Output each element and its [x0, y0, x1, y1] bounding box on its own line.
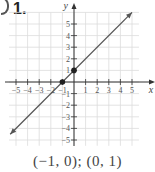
y-axis-arrow-icon [72, 3, 77, 9]
y-axis-label: y [63, 0, 69, 11]
y-tick-label: −4 [61, 124, 70, 133]
y-tick-label: −3 [61, 113, 70, 122]
x-tick-label: 1 [84, 86, 88, 95]
x-tick-label: 2 [95, 86, 99, 95]
y-tick-label: −5 [61, 136, 70, 145]
x-tick-label: −5 [12, 86, 21, 95]
graph-line [10, 12, 132, 134]
y-tick-label: −1 [61, 90, 70, 99]
points-caption: (−1, 0); (0, 1) [0, 153, 155, 170]
x-tick-label: 4 [118, 86, 122, 95]
y-tick-label: 2 [66, 55, 70, 64]
plotted-point [60, 79, 66, 85]
x-tick-label: −4 [23, 86, 32, 95]
x-axis-label: x [148, 84, 154, 95]
x-tick-label: 3 [107, 86, 111, 95]
y-tick-label: 4 [66, 32, 70, 41]
x-tick-label: 5 [130, 86, 134, 95]
y-tick-label: 3 [66, 43, 70, 52]
y-tick-label: 5 [66, 20, 70, 29]
y-tick-label: −2 [61, 101, 70, 110]
coordinate-plane: −5−4−3−2−112345−5−4−3−2−112345xy [0, 0, 155, 172]
x-tick-label: −3 [35, 86, 44, 95]
y-tick-label: 1 [66, 66, 70, 75]
plotted-point [71, 68, 77, 74]
